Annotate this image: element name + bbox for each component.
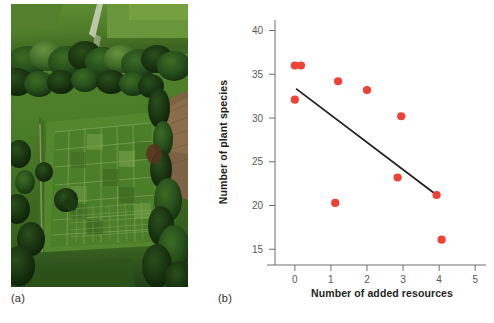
regression-line	[297, 89, 437, 195]
trend-line	[297, 89, 437, 195]
y-tick-label: 25	[252, 156, 264, 167]
y-axis-title: Number of plant species	[217, 80, 229, 204]
data-point	[363, 86, 371, 94]
plot-axes	[267, 20, 486, 265]
data-point	[394, 173, 402, 181]
data-points	[291, 61, 446, 243]
x-tick-label: 4	[436, 274, 442, 285]
x-tick-label: 5	[472, 274, 478, 285]
x-tick-label: 1	[328, 274, 334, 285]
x-axis-title: Number of added resources	[311, 287, 453, 299]
scatter-plot: 152025303540 012345 Number of plant spec…	[205, 0, 494, 323]
data-point	[334, 77, 342, 85]
data-point	[297, 61, 305, 69]
data-point	[432, 191, 440, 199]
y-tick-label: 20	[252, 200, 264, 211]
aerial-photograph-grassland-experiment-plots	[11, 4, 188, 287]
data-point	[438, 236, 446, 244]
data-point	[397, 112, 405, 120]
panel-a	[11, 4, 188, 287]
x-tick-label: 0	[292, 274, 298, 285]
x-tick-label: 3	[400, 274, 406, 285]
y-tick-label: 30	[252, 113, 264, 124]
panel-a-caption: (a)	[11, 292, 25, 304]
y-tick-label: 35	[252, 69, 264, 80]
figure-container: (a) 152025303540 012345 Number of plant …	[0, 0, 494, 323]
y-axis-ticks: 152025303540	[252, 25, 275, 255]
data-point	[331, 199, 339, 207]
y-tick-label: 15	[252, 244, 264, 255]
panel-b: 152025303540 012345 Number of plant spec…	[205, 0, 494, 323]
x-tick-label: 2	[364, 274, 370, 285]
y-tick-label: 40	[252, 25, 264, 36]
x-axis-ticks: 012345	[292, 265, 478, 285]
data-point	[291, 96, 299, 104]
panel-b-caption: (b)	[218, 292, 232, 304]
